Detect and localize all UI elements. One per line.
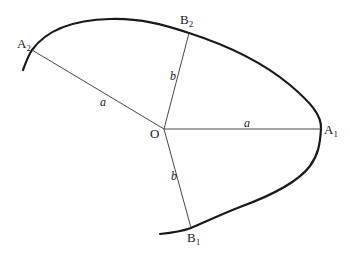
segment-OB2: [164, 33, 189, 129]
segment-label-OB1: b: [171, 169, 177, 183]
segment-label-OB2: b: [170, 69, 176, 83]
outer-curve: [23, 19, 321, 234]
label-A2: A2: [17, 36, 31, 53]
label-A1: A1: [324, 122, 338, 139]
label-B2: B2: [180, 12, 193, 29]
segment-label-OA1: a: [244, 116, 250, 130]
label-O: O: [150, 126, 159, 141]
segment-OA2: [32, 50, 164, 129]
curve-diagram: O A1 A2 B2 B1 a a b b: [0, 0, 350, 255]
segment-OB1: [164, 129, 191, 228]
label-B1: B1: [187, 230, 200, 247]
segment-label-OA2: a: [100, 95, 106, 109]
